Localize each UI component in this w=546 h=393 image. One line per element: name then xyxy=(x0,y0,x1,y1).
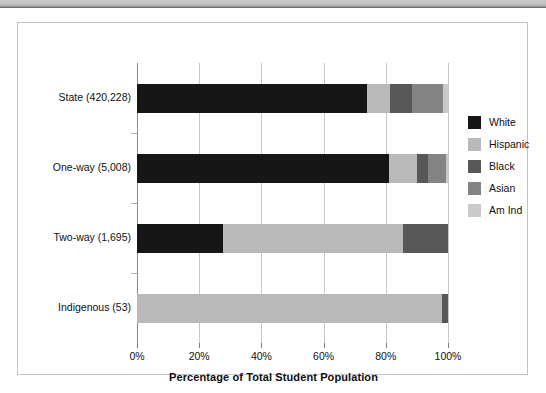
legend-item-asian: Asian xyxy=(468,177,546,199)
category-label-2: Two-way (1,695) xyxy=(21,231,131,243)
bar-segment-asian xyxy=(428,154,447,183)
tick-label-60pct: 60% xyxy=(304,350,344,362)
bar-segment-am-ind xyxy=(443,84,448,113)
bar-row xyxy=(137,224,448,253)
legend-swatch-icon xyxy=(468,138,481,151)
legend-item-hispanic: Hispanic xyxy=(468,133,546,155)
tick-mark-100pct xyxy=(448,343,449,348)
legend-label: White xyxy=(489,116,516,128)
x-axis-title: Percentage of Total Student Population xyxy=(18,371,529,383)
tick-mark-80pct xyxy=(386,343,387,348)
bar-segment-hispanic xyxy=(223,224,403,253)
bar-segment-asian xyxy=(412,84,443,113)
tick-mark-40pct xyxy=(261,343,262,348)
bar-segment-white xyxy=(137,84,367,113)
legend-item-white: White xyxy=(468,111,546,133)
category-tick xyxy=(131,203,137,204)
legend-label: Am Ind xyxy=(489,204,522,216)
legend-label: Black xyxy=(489,160,515,172)
bar-segment-white xyxy=(137,154,389,183)
plot-area xyxy=(137,63,448,343)
bar-segment-hispanic xyxy=(367,84,390,113)
category-tick xyxy=(131,273,137,274)
tick-label-20pct: 20% xyxy=(179,350,219,362)
legend-item-am-ind: Am Ind xyxy=(468,199,546,221)
scanned-page-banner-rule xyxy=(0,7,546,8)
legend-swatch-icon xyxy=(468,182,481,195)
chart-figure-frame: State (420,228)One-way (5,008)Two-way (1… xyxy=(17,22,528,375)
gridline-100pct xyxy=(448,63,449,343)
legend-swatch-icon xyxy=(468,160,481,173)
tick-label-80pct: 80% xyxy=(366,350,406,362)
tick-label-100pct: 100% xyxy=(428,350,468,362)
legend-swatch-icon xyxy=(468,204,481,217)
legend-swatch-icon xyxy=(468,116,481,129)
tick-mark-60pct xyxy=(324,343,325,348)
legend-item-black: Black xyxy=(468,155,546,177)
tick-label-40pct: 40% xyxy=(241,350,281,362)
bar-row xyxy=(137,84,448,113)
bar-segment-black xyxy=(390,84,412,113)
bar-segment-hispanic xyxy=(389,154,417,183)
category-label-0: State (420,228) xyxy=(21,91,131,103)
tick-mark-20pct xyxy=(199,343,200,348)
bar-segment-am-ind xyxy=(446,154,448,183)
legend-label: Asian xyxy=(489,182,515,194)
tick-label-0pct: 0% xyxy=(117,350,157,362)
bar-segment-black xyxy=(442,294,448,323)
bar-segment-white xyxy=(137,224,223,253)
category-tick xyxy=(131,133,137,134)
category-label-1: One-way (5,008) xyxy=(21,161,131,173)
category-label-3: Indigenous (53) xyxy=(21,301,131,313)
bar-segment-black xyxy=(417,154,428,183)
bar-row xyxy=(137,294,448,323)
bar-row xyxy=(137,154,448,183)
legend-label: Hispanic xyxy=(489,138,529,150)
category-axis-labels: State (420,228)One-way (5,008)Two-way (1… xyxy=(18,63,131,343)
scanned-page-banner xyxy=(0,0,546,7)
tick-mark-0pct xyxy=(137,343,138,348)
bar-segment-black xyxy=(403,224,448,253)
bar-segment-hispanic xyxy=(137,294,442,323)
chart-legend: WhiteHispanicBlackAsianAm Ind xyxy=(468,111,546,221)
